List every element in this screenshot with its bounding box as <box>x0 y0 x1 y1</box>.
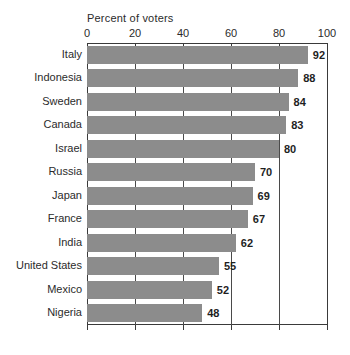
bar-sweden <box>87 93 289 111</box>
bar-israel <box>87 140 279 158</box>
bar-row: 92 <box>87 46 328 64</box>
category-label-sweden: Sweden <box>0 95 82 107</box>
category-label-canada: Canada <box>0 118 82 130</box>
bar-value-label: 69 <box>258 190 270 202</box>
bar-row: 55 <box>87 257 328 275</box>
tick-bottom-60 <box>231 325 232 330</box>
category-label-russia: Russia <box>0 165 82 177</box>
chart-axis-title: Percent of voters <box>87 12 174 24</box>
bar-value-label: 48 <box>207 307 219 319</box>
category-label-israel: Israel <box>0 142 82 154</box>
category-label-indonesia: Indonesia <box>0 71 82 83</box>
bar-row: 62 <box>87 234 328 252</box>
bar-chart: Percent of voters 020406080100 ItalyIndo… <box>0 0 350 355</box>
bar-value-label: 84 <box>294 96 306 108</box>
x-tick-label-0: 0 <box>84 27 90 39</box>
category-label-nigeria: Nigeria <box>0 306 82 318</box>
bar-value-label: 55 <box>224 260 236 272</box>
x-tick-label-100: 100 <box>318 27 336 39</box>
bar-row: 70 <box>87 163 328 181</box>
bar-italy <box>87 46 308 64</box>
tick-bottom-0 <box>87 325 88 330</box>
bar-row: 84 <box>87 93 328 111</box>
axis-line-top <box>87 43 328 44</box>
bar-row: 52 <box>87 281 328 299</box>
x-tick-label-20: 20 <box>129 27 141 39</box>
tick-bottom-100 <box>327 325 328 330</box>
axis-line-bottom <box>87 324 328 325</box>
category-label-india: India <box>0 236 82 248</box>
category-label-united-states: United States <box>0 259 82 271</box>
bar-row: 83 <box>87 116 328 134</box>
bar-united-states <box>87 257 219 275</box>
bar-row: 80 <box>87 140 328 158</box>
bar-value-label: 92 <box>313 49 325 61</box>
x-tick-label-40: 40 <box>177 27 189 39</box>
bar-value-label: 70 <box>260 166 272 178</box>
plot-area: 928884838070696762555248 <box>87 43 328 325</box>
tick-bottom-80 <box>279 325 280 330</box>
bar-russia <box>87 163 255 181</box>
category-label-mexico: Mexico <box>0 283 82 295</box>
bar-row: 67 <box>87 210 328 228</box>
bar-value-label: 88 <box>303 72 315 84</box>
bar-value-label: 52 <box>217 284 229 296</box>
category-label-france: France <box>0 212 82 224</box>
bar-mexico <box>87 281 212 299</box>
bar-row: 88 <box>87 69 328 87</box>
category-label-italy: Italy <box>0 48 82 60</box>
x-tick-label-80: 80 <box>273 27 285 39</box>
category-label-japan: Japan <box>0 189 82 201</box>
bar-indonesia <box>87 69 298 87</box>
tick-bottom-40 <box>183 325 184 330</box>
bar-value-label: 62 <box>241 237 253 249</box>
bar-row: 69 <box>87 187 328 205</box>
bar-row: 48 <box>87 304 328 322</box>
bar-nigeria <box>87 304 202 322</box>
bar-canada <box>87 116 286 134</box>
bar-france <box>87 210 248 228</box>
x-tick-label-60: 60 <box>225 27 237 39</box>
bar-value-label: 83 <box>291 119 303 131</box>
tick-bottom-20 <box>135 325 136 330</box>
bar-india <box>87 234 236 252</box>
bar-japan <box>87 187 253 205</box>
bar-value-label: 80 <box>284 143 296 155</box>
bar-value-label: 67 <box>253 213 265 225</box>
